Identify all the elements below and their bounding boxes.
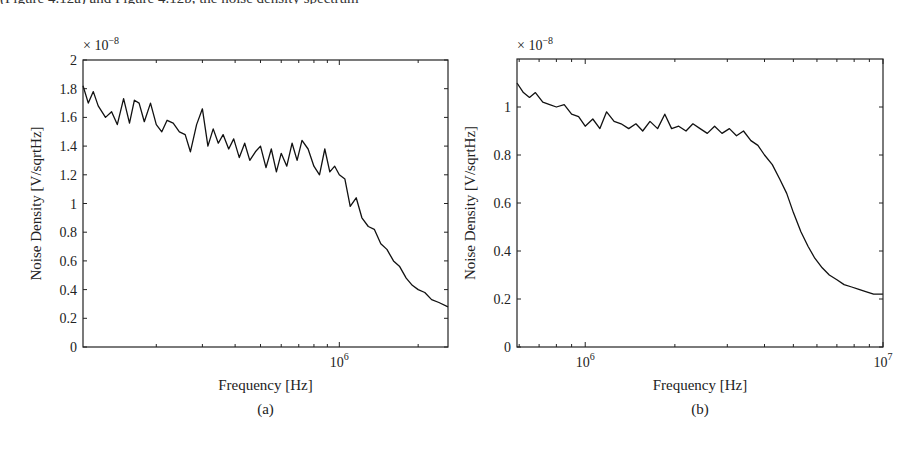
y-tick-label: 0.6 — [60, 254, 78, 269]
y-tick-label: 0.4 — [60, 283, 78, 298]
x-axis-label-b: Frequency [Hz] — [653, 377, 748, 393]
y-tick-label: 1.2 — [60, 168, 78, 183]
y-tick-label: 0.8 — [60, 225, 78, 240]
noise-trace-b — [517, 83, 883, 294]
y-tick-label: 0 — [70, 340, 77, 355]
y-tick-label: 0.8 — [494, 148, 512, 163]
y-tick-label: 0.6 — [494, 196, 512, 211]
y-tick-label: 1.8 — [60, 82, 78, 97]
x-tick-label: 106 — [576, 351, 595, 370]
y-tick-label: 1.4 — [60, 139, 78, 154]
panel-label-b: (b) — [691, 401, 709, 418]
y-axis-label-a: Noise Density [V/sqrtHz] — [28, 126, 44, 280]
y-axis-ticks-b: 00.20.40.60.81 — [494, 100, 884, 355]
y-multiplier-b: × 10−8 — [517, 35, 553, 53]
figure: × 10−8 00.20.40.60.811.21.41.61.82 106 F… — [0, 0, 915, 457]
x-axis-ticks-b: 106107 — [519, 59, 892, 370]
y-tick-label: 1.6 — [60, 110, 78, 125]
y-tick-label: 0.2 — [494, 292, 512, 307]
x-axis-ticks-a: 106 — [156, 60, 418, 370]
y-axis-label-b: Noise Density [V/sqrtHz] — [462, 126, 478, 280]
plot-frame-a — [83, 60, 448, 347]
x-axis-label-a: Frequency [Hz] — [218, 377, 313, 393]
plot-frame-b — [517, 59, 883, 347]
y-tick-label: 0.2 — [60, 311, 78, 326]
y-tick-label: 2 — [70, 53, 77, 68]
y-tick-label: 0 — [504, 340, 511, 355]
chart-panel-a: × 10−8 00.20.40.60.811.21.41.61.82 106 F… — [28, 35, 448, 418]
panel-label-a: (a) — [257, 401, 274, 418]
x-tick-label: 107 — [874, 351, 893, 370]
y-tick-label: 1 — [504, 100, 511, 115]
y-multiplier-a: × 10−8 — [83, 35, 119, 53]
x-tick-label: 106 — [330, 351, 349, 370]
chart-panel-b: × 10−8 00.20.40.60.81 106107 Frequency [… — [462, 35, 893, 418]
y-axis-ticks-a: 00.20.40.60.811.21.41.61.82 — [60, 53, 449, 355]
y-tick-label: 1 — [70, 197, 77, 212]
y-tick-label: 0.4 — [494, 244, 512, 259]
noise-trace-a — [83, 86, 448, 307]
